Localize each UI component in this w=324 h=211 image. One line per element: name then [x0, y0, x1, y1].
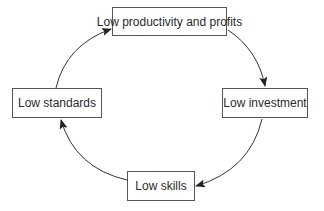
node-label: Low skills — [135, 179, 186, 193]
node-low-skills: Low skills — [127, 171, 195, 201]
node-low-investment: Low investment — [222, 88, 308, 118]
arrow-right-to-bottom — [196, 119, 262, 186]
node-label: Low productivity and profits — [97, 15, 242, 29]
node-label: Low standards — [18, 96, 96, 110]
arrow-bottom-to-left — [61, 120, 127, 180]
node-label: Low investment — [223, 96, 306, 110]
arrow-left-to-top — [56, 29, 111, 88]
arrow-top-to-right — [228, 30, 265, 86]
node-low-productivity-and-profits: Low productivity and profits — [112, 7, 227, 36]
node-low-standards: Low standards — [12, 88, 102, 118]
